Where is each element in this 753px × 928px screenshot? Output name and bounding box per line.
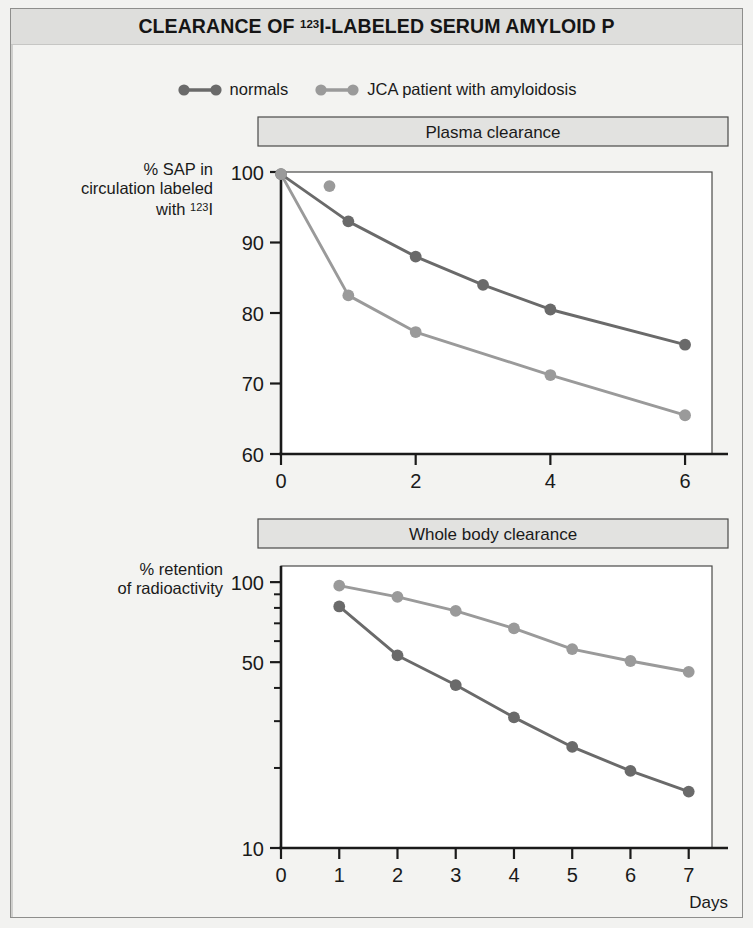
- y-axis-title-line-1: % retention: [8, 560, 223, 579]
- data-point: [508, 622, 520, 634]
- data-point: [625, 765, 637, 777]
- x-axis-tick-label: 4: [508, 864, 519, 886]
- data-point: [342, 215, 354, 227]
- data-point-outlier: [324, 180, 336, 192]
- y-axis-title-superscript: 123: [190, 201, 208, 213]
- x-axis-tick-label: 5: [567, 864, 578, 886]
- data-point: [679, 339, 691, 351]
- data-point: [333, 601, 345, 613]
- data-point: [544, 369, 556, 381]
- y-axis-tick-label: 90: [242, 232, 264, 254]
- y-axis-title-line-2: of radioactivity: [8, 579, 223, 598]
- chart-plasma-y-axis-title: % SAP in circulation labeled with 123I: [8, 160, 213, 219]
- data-point: [450, 679, 462, 691]
- x-axis-tick-label: 4: [545, 470, 556, 492]
- legend-label-patient: JCA patient with amyloidosis: [367, 80, 576, 99]
- figure-page: CLEARANCE OF 123I-LABELED SERUM AMYLOID …: [0, 0, 753, 928]
- legend-marker-normals: [177, 82, 223, 98]
- data-point: [683, 666, 695, 678]
- legend-label-normals: normals: [230, 80, 289, 99]
- data-point: [566, 643, 578, 655]
- y-axis-title-line-3: with 123I: [8, 198, 213, 219]
- legend-marker-patient: [314, 82, 360, 98]
- data-point: [625, 655, 637, 667]
- legend-entry-patient: JCA patient with amyloidosis: [314, 80, 576, 99]
- x-axis-tick-label: 6: [680, 470, 691, 492]
- panel-title-text: Plasma clearance: [425, 123, 560, 142]
- figure-header-band: CLEARANCE OF 123I-LABELED SERUM AMYLOID …: [11, 9, 742, 45]
- data-point: [392, 650, 404, 662]
- y-axis-tick-label: 70: [242, 373, 264, 395]
- data-point: [477, 279, 489, 291]
- data-point: [342, 289, 354, 301]
- x-axis-tick-label: 2: [410, 470, 421, 492]
- data-point: [683, 786, 695, 798]
- data-point: [450, 605, 462, 617]
- x-axis-tick-label: 6: [625, 864, 636, 886]
- chart-whole-body-y-axis-title: % retention of radioactivity: [8, 560, 223, 598]
- figure-title-superscript: 123: [300, 18, 319, 30]
- x-axis-title: Days: [689, 893, 728, 912]
- y-axis-title-line-2: circulation labeled: [8, 179, 213, 198]
- plot-area: [281, 172, 712, 454]
- figure-title-prefix: CLEARANCE OF: [138, 15, 300, 37]
- x-axis-tick-label: 0: [275, 470, 286, 492]
- data-point: [544, 304, 556, 316]
- data-point: [410, 251, 422, 263]
- data-point: [333, 580, 345, 592]
- figure-title: CLEARANCE OF 123I-LABELED SERUM AMYLOID …: [138, 15, 614, 38]
- x-axis-tick-label: 3: [450, 864, 461, 886]
- data-point: [566, 741, 578, 753]
- figure-legend: normals JCA patient with amyloidosis: [0, 80, 753, 99]
- figure-title-suffix: I-LABELED SERUM AMYLOID P: [319, 15, 614, 37]
- y-axis-tick-label: 10: [242, 838, 264, 860]
- y-axis-tick-label: 60: [242, 444, 264, 466]
- y-axis-title-line-1: % SAP in: [8, 160, 213, 179]
- data-point: [410, 326, 422, 338]
- y-axis-tick-label: 100: [231, 162, 264, 184]
- legend-entry-normals: normals: [177, 80, 289, 99]
- panel-title-text: Whole body clearance: [409, 525, 577, 544]
- y-axis-tick-label: 50: [242, 652, 264, 674]
- x-axis-tick-label: 7: [683, 864, 694, 886]
- y-axis-tick-label: 80: [242, 303, 264, 325]
- y-axis-tick-label: 100: [231, 572, 264, 594]
- data-point: [392, 591, 404, 603]
- x-axis-tick-label: 0: [275, 864, 286, 886]
- x-axis-tick-label: 1: [334, 864, 345, 886]
- x-axis-tick-label: 2: [392, 864, 403, 886]
- data-point: [508, 711, 520, 723]
- data-point: [275, 168, 287, 180]
- data-point: [679, 409, 691, 421]
